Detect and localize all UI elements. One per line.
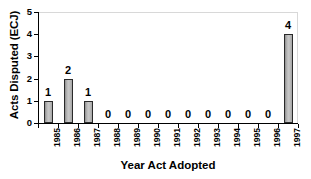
y-tick-label: 4 — [27, 28, 32, 39]
value-label-1996: 0 — [261, 108, 275, 120]
y-axis-line — [38, 12, 39, 124]
value-label-1985: 1 — [41, 86, 55, 98]
x-category-label-1987: 1987 — [92, 128, 102, 162]
value-label-1986: 2 — [61, 64, 75, 76]
plot-frame-top — [38, 12, 298, 13]
y-tick-label: 0 — [27, 117, 32, 128]
x-category-label-1989: 1989 — [132, 128, 142, 162]
value-label-1997: 4 — [281, 19, 295, 31]
x-tick — [38, 124, 39, 128]
value-label-1993: 0 — [201, 108, 215, 120]
y-tick-3: 3 — [34, 56, 38, 57]
plot-frame-right — [297, 12, 298, 124]
y-tick-2: 2 — [34, 79, 38, 80]
x-category-label-1990: 1990 — [152, 128, 162, 162]
bar-1986 — [64, 79, 73, 123]
y-tick-4: 4 — [34, 34, 38, 35]
x-category-label-1992: 1992 — [192, 128, 202, 162]
value-label-1992: 0 — [181, 108, 195, 120]
value-label-1990: 0 — [141, 108, 155, 120]
x-category-label-1993: 1993 — [212, 128, 222, 162]
bar-1997 — [284, 34, 293, 123]
y-tick-label: 3 — [27, 50, 32, 61]
value-label-1988: 0 — [101, 108, 115, 120]
y-tick-label: 1 — [27, 95, 32, 106]
x-category-label-1991: 1991 — [172, 128, 182, 162]
bar-chart: Acts Disputed (ECJ) Year Act Adopted 012… — [0, 0, 311, 179]
x-category-label-1997: 1997 — [292, 128, 302, 162]
y-tick-5: 5 — [34, 12, 38, 13]
y-tick-1: 1 — [34, 101, 38, 102]
x-category-label-1995: 1995 — [252, 128, 262, 162]
plot-area: 012345 1210000000004 — [38, 12, 298, 124]
bar-1985 — [44, 101, 53, 123]
y-tick-label: 2 — [27, 73, 32, 84]
x-axis-line — [38, 123, 298, 124]
value-label-1995: 0 — [241, 108, 255, 120]
value-label-1987: 1 — [81, 86, 95, 98]
value-label-1991: 0 — [161, 108, 175, 120]
value-label-1989: 0 — [121, 108, 135, 120]
bar-1987 — [84, 101, 93, 123]
x-category-label-1988: 1988 — [112, 128, 122, 162]
x-category-label-1996: 1996 — [272, 128, 282, 162]
value-label-1994: 0 — [221, 108, 235, 120]
x-category-label-1986: 1986 — [72, 128, 82, 162]
y-axis-title: Acts Disputed (ECJ) — [8, 0, 20, 130]
x-category-label-1985: 1985 — [52, 128, 62, 162]
x-category-label-1994: 1994 — [232, 128, 242, 162]
y-tick-label: 5 — [27, 6, 32, 17]
